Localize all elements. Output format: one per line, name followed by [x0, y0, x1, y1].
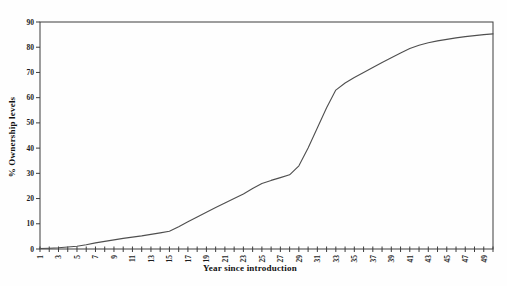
x-tick-label: 23	[239, 255, 248, 263]
x-tick-label: 47	[461, 255, 470, 263]
y-tick-label: 20	[27, 194, 35, 203]
y-tick-label: 80	[27, 43, 35, 52]
x-tick-label: 35	[350, 255, 359, 263]
ownership-line-chart: 0102030405060708090135791113151719212325…	[0, 0, 507, 286]
x-tick-label: 11	[128, 255, 137, 262]
plot-area: 0102030405060708090135791113151719212325…	[0, 0, 507, 286]
x-tick-label: 27	[276, 255, 285, 263]
x-tick-label: 5	[73, 255, 82, 259]
y-tick-label: 10	[27, 219, 35, 228]
x-tick-label: 39	[387, 255, 396, 263]
x-tick-label: 31	[313, 255, 322, 263]
x-tick-label: 45	[443, 255, 452, 263]
y-tick-label: 60	[27, 93, 35, 102]
y-tick-label: 0	[30, 245, 34, 254]
plot-frame	[40, 22, 493, 249]
x-tick-label: 15	[165, 255, 174, 263]
x-tick-label: 9	[110, 255, 119, 259]
y-tick-label: 70	[27, 68, 35, 77]
y-tick-label: 40	[27, 144, 35, 153]
ownership-curve	[40, 34, 493, 249]
y-tick-label: 50	[27, 118, 35, 127]
x-tick-label: 1	[36, 255, 45, 259]
x-tick-label: 43	[424, 255, 433, 263]
x-tick-label: 7	[91, 255, 100, 259]
x-tick-label: 13	[147, 255, 156, 263]
x-tick-label: 49	[480, 255, 489, 263]
x-tick-label: 41	[406, 255, 415, 263]
x-tick-label: 3	[54, 255, 63, 259]
x-axis-title: Year since introduction	[40, 263, 460, 273]
x-tick-label: 37	[369, 255, 378, 263]
x-tick-label: 17	[184, 255, 193, 263]
x-tick-label: 19	[202, 255, 211, 263]
y-tick-label: 90	[27, 18, 35, 27]
x-tick-label: 25	[258, 255, 267, 263]
x-tick-label: 29	[295, 255, 304, 263]
x-tick-label: 21	[221, 255, 230, 263]
y-axis-title: % Ownership levels	[7, 57, 19, 217]
y-tick-label: 30	[27, 169, 35, 178]
x-tick-label: 33	[332, 255, 341, 263]
